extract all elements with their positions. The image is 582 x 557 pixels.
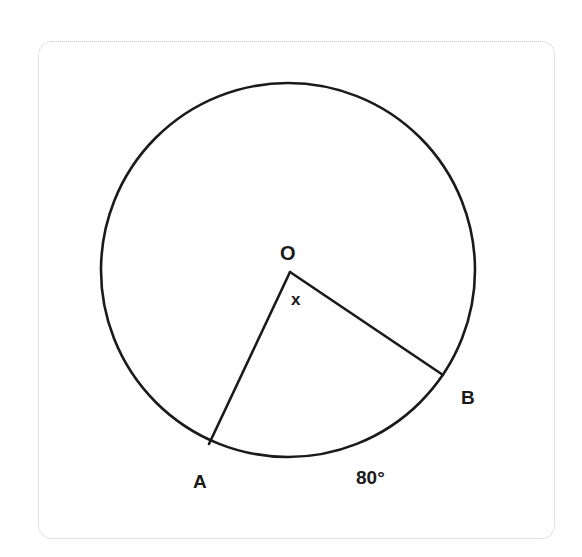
arc-measure-label: 80° xyxy=(356,468,385,487)
angle-label-x: x xyxy=(291,291,300,308)
center-label-o: O xyxy=(280,243,296,263)
radius-ob xyxy=(290,272,443,375)
point-label-b: B xyxy=(461,388,475,407)
circle xyxy=(101,83,475,457)
circle-diagram xyxy=(0,0,582,557)
radius-oa xyxy=(209,272,290,444)
point-label-a: A xyxy=(193,472,207,491)
